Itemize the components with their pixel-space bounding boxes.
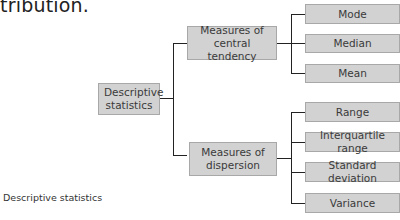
root-label: Descriptive statistics xyxy=(104,86,154,112)
leaf-node-mode: Mode xyxy=(305,4,400,24)
branch-label: Measures of dispersion xyxy=(198,146,268,172)
leaf-label: Interquartile range xyxy=(306,129,399,155)
leaf-label: Median xyxy=(333,37,371,50)
branch-node-dispersion: Measures of dispersion xyxy=(189,142,277,176)
root-node: Descriptive statistics xyxy=(98,83,160,115)
connector xyxy=(291,43,305,44)
leaf-node-standard-deviation: Standard deviation xyxy=(305,162,400,182)
connector xyxy=(173,43,174,155)
connector xyxy=(291,73,305,74)
connector xyxy=(291,172,305,173)
leaf-label: Variance xyxy=(330,197,375,210)
leaf-label: Mean xyxy=(338,67,367,80)
connector xyxy=(291,112,292,204)
leaf-label: Range xyxy=(336,106,369,119)
leaf-node-mean: Mean xyxy=(305,64,400,83)
leaf-label: Standard deviation xyxy=(306,159,399,185)
figure-caption: Descriptive statistics xyxy=(3,192,102,203)
connector xyxy=(173,155,187,156)
connector xyxy=(277,158,291,159)
connector xyxy=(160,98,173,99)
connector xyxy=(291,112,305,113)
connector xyxy=(291,142,305,143)
branch-node-central-tendency: Measures of central tendency xyxy=(187,26,277,60)
leaf-label: Mode xyxy=(338,8,367,21)
branch-label: Measures of central tendency xyxy=(192,24,272,63)
connector xyxy=(291,14,292,74)
connector xyxy=(277,43,291,44)
connector xyxy=(291,14,305,15)
leaf-node-variance: Variance xyxy=(305,193,400,213)
connector xyxy=(173,43,187,44)
leaf-node-range: Range xyxy=(305,102,400,122)
leaf-node-median: Median xyxy=(305,34,400,53)
intro-text: tribution. xyxy=(0,0,89,16)
leaf-node-interquartile-range: Interquartile range xyxy=(305,132,400,152)
connector xyxy=(291,203,305,204)
